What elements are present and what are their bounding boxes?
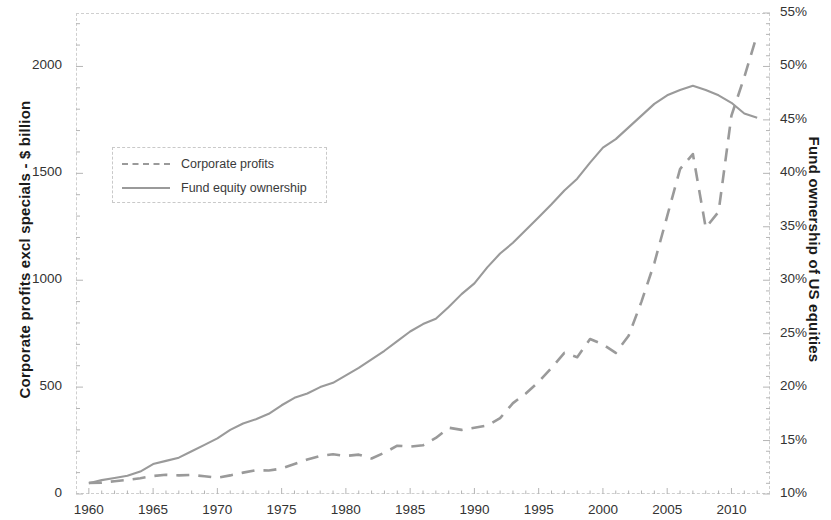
legend-swatch-corporate-profits <box>122 163 170 165</box>
chart-legend: Corporate profits Fund equity ownership <box>112 147 327 203</box>
x-axis-tick-label: 2005 <box>637 502 697 517</box>
y-axis-right-tick-label: 30% <box>780 271 830 286</box>
legend-label-fund-equity-ownership: Fund equity ownership <box>181 181 307 195</box>
chart-container: Corporate profits excl specials - $ bill… <box>0 0 831 520</box>
x-axis-tick-label: 1965 <box>123 502 183 517</box>
series-layer <box>76 13 770 494</box>
x-axis-tick-label: 1975 <box>252 502 312 517</box>
y-axis-left-tick-label: 1500 <box>16 164 62 179</box>
y-axis-right-tick-label: 35% <box>780 218 830 233</box>
y-axis-right-tick-label: 55% <box>780 4 830 19</box>
y-axis-right-tick-label: 25% <box>780 325 830 340</box>
y-axis-right-tick-label: 45% <box>780 111 830 126</box>
x-axis-tick-label: 1970 <box>187 502 247 517</box>
x-axis-tick-label: 2000 <box>573 502 633 517</box>
y-axis-left-tick-label: 1000 <box>16 271 62 286</box>
x-axis-tick-label: 1995 <box>509 502 569 517</box>
y-axis-left-title: Corporate profits excl specials - $ bill… <box>16 40 33 460</box>
y-axis-right-tick-label: 50% <box>780 57 830 72</box>
y-axis-right-tick-label: 10% <box>780 485 830 500</box>
legend-label-corporate-profits: Corporate profits <box>181 157 274 171</box>
x-axis-tick-label: 1980 <box>316 502 376 517</box>
y-axis-left-tick-label: 500 <box>16 378 62 393</box>
x-axis-tick-label: 1990 <box>444 502 504 517</box>
y-axis-left-tick-label: 0 <box>16 485 62 500</box>
series-line-fund-equity-ownership <box>89 86 757 484</box>
plot-area <box>76 13 770 494</box>
x-axis-tick-label: 1960 <box>59 502 119 517</box>
y-axis-right-title: Fund ownership of US equities <box>806 40 823 460</box>
y-axis-left-tick-label: 2000 <box>16 57 62 72</box>
x-axis-tick-label: 2010 <box>701 502 761 517</box>
y-axis-right-tick-label: 40% <box>780 164 830 179</box>
x-axis-tick-label: 1985 <box>380 502 440 517</box>
legend-swatch-fund-equity-ownership <box>122 187 170 189</box>
y-axis-right-tick-label: 15% <box>780 432 830 447</box>
y-axis-right-tick-label: 20% <box>780 378 830 393</box>
